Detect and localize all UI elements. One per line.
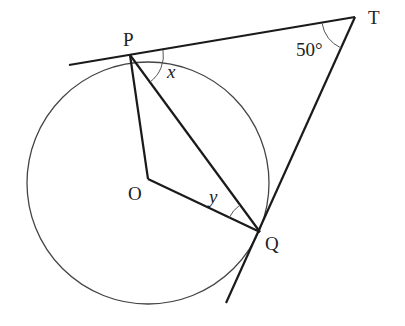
angle-arc-t bbox=[322, 23, 341, 48]
label-p: P bbox=[123, 29, 134, 50]
chord-pq bbox=[130, 55, 260, 232]
angle-arc-y bbox=[229, 205, 240, 218]
geometry-diagram: P T Q O 50° x y bbox=[0, 0, 405, 326]
radius-op bbox=[130, 55, 148, 179]
radius-oq bbox=[148, 179, 260, 232]
label-t: T bbox=[368, 7, 380, 28]
label-q: Q bbox=[265, 233, 279, 254]
label-angle-y: y bbox=[207, 186, 218, 207]
label-angle-t: 50° bbox=[296, 39, 323, 60]
label-o: O bbox=[128, 183, 142, 204]
tangent-line-tq bbox=[226, 17, 355, 303]
circle bbox=[27, 62, 269, 304]
angle-arc-x bbox=[150, 50, 163, 82]
label-angle-x: x bbox=[166, 61, 176, 82]
